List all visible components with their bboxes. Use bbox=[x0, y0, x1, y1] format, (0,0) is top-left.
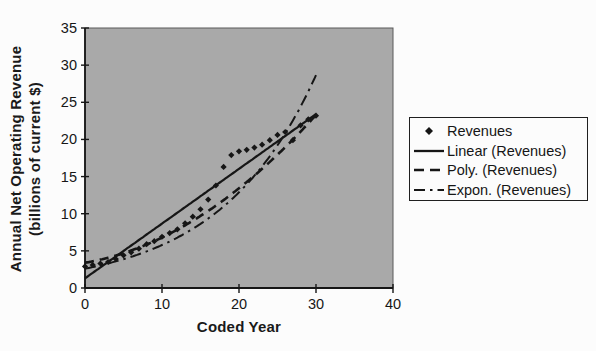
legend-label: Poly. (Revenues) bbox=[447, 162, 557, 178]
legend-item-expon: Expon. (Revenues) bbox=[413, 181, 587, 200]
y-axis-title-line1: Annual Net Operating Revenue bbox=[6, 24, 25, 294]
x-tick-label: 20 bbox=[231, 296, 247, 312]
x-axis-title: Coded Year bbox=[85, 318, 393, 335]
chart-figure: 05101520253035010203040 Annual Net Opera… bbox=[0, 0, 596, 351]
y-tick-label: 0 bbox=[69, 280, 77, 296]
legend-item-linear: Linear (Revenues) bbox=[413, 141, 587, 160]
y-tick-label: 5 bbox=[69, 243, 77, 259]
dash-dot-line-icon bbox=[413, 183, 447, 197]
diamond-marker-icon bbox=[413, 124, 447, 138]
dashed-line-icon bbox=[413, 163, 447, 177]
plot-area bbox=[85, 28, 393, 288]
y-tick-label: 20 bbox=[61, 131, 77, 147]
legend-label: Revenues bbox=[447, 123, 512, 139]
y-tick-label: 35 bbox=[61, 20, 77, 36]
y-tick-label: 10 bbox=[61, 206, 77, 222]
legend-label: Expon. (Revenues) bbox=[447, 182, 571, 198]
x-tick-label: 30 bbox=[308, 296, 324, 312]
legend: Revenues Linear (Revenues) Poly. (Revenu… bbox=[409, 117, 588, 201]
y-tick-label: 30 bbox=[61, 57, 77, 73]
y-axis-title: Annual Net Operating Revenue (billions o… bbox=[6, 24, 46, 294]
legend-item-revenues: Revenues bbox=[413, 121, 587, 140]
y-axis-title-line2: (billions of current $) bbox=[25, 24, 44, 294]
y-tick-label: 25 bbox=[61, 94, 77, 110]
solid-line-icon bbox=[413, 144, 447, 158]
y-tick-label: 15 bbox=[61, 169, 77, 185]
legend-item-poly: Poly. (Revenues) bbox=[413, 161, 587, 180]
x-tick-label: 0 bbox=[81, 296, 89, 312]
x-tick-label: 10 bbox=[154, 296, 170, 312]
x-tick-label: 40 bbox=[385, 296, 401, 312]
legend-label: Linear (Revenues) bbox=[447, 143, 566, 159]
